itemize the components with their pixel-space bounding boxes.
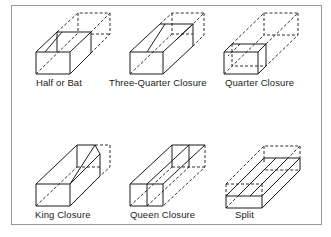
label-quarter-closure: Quarter Closure: [225, 77, 294, 88]
brick-diagrams: [0, 0, 331, 237]
half-or-bat-drawing: [36, 13, 110, 74]
quarter-closure-drawing: [224, 13, 298, 74]
label-king-closure: King Closure: [35, 209, 91, 220]
king-closure-drawing: [36, 145, 110, 206]
label-half-or-bat: Half or Bat: [36, 77, 82, 88]
queen-closure-drawing: [130, 145, 205, 206]
three-quarter-closure-drawing: [130, 13, 204, 74]
label-three-quarter-closure: Three-Quarter Closure: [109, 77, 207, 88]
split-drawing: [226, 146, 300, 208]
label-split: Split: [235, 209, 254, 220]
label-queen-closure: Queen Closure: [130, 209, 195, 220]
